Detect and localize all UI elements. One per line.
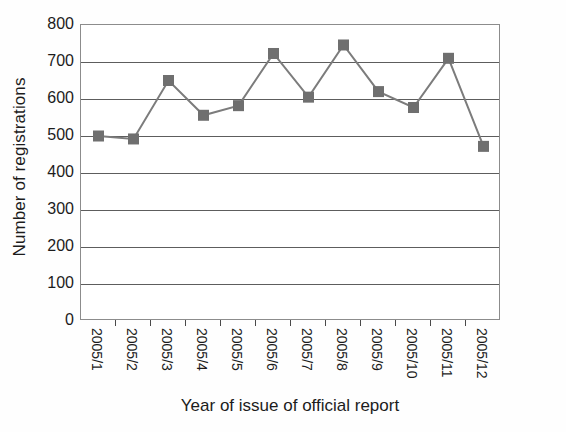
data-point-marker (128, 133, 139, 144)
y-tick-label: 200 (28, 236, 74, 255)
data-point-marker (93, 131, 104, 142)
data-point-marker (408, 102, 419, 113)
y-tick-label: 0 (28, 310, 74, 329)
x-tick-label: 2005/6 (265, 328, 279, 371)
x-tick (255, 320, 256, 326)
x-tick (115, 320, 116, 326)
y-tick-label: 800 (28, 14, 74, 33)
x-tick (395, 320, 396, 326)
data-point-marker (198, 110, 209, 121)
x-tick (465, 320, 466, 326)
data-point-marker (443, 53, 454, 64)
x-tick (185, 320, 186, 326)
x-tick-label: 2005/2 (125, 328, 139, 371)
data-point-marker (303, 92, 314, 103)
data-point-marker (233, 100, 244, 111)
x-tick-label: 2005/1 (90, 328, 104, 371)
x-tick (325, 320, 326, 326)
x-tick-label: 2005/9 (370, 328, 384, 371)
data-point-marker (338, 39, 349, 50)
y-tick-label: 300 (28, 199, 74, 218)
series-line-registrations (81, 25, 501, 321)
x-tick-label: 2005/4 (195, 328, 209, 371)
x-tick-label: 2005/5 (230, 328, 244, 371)
x-tick-label: 2005/12 (475, 328, 489, 379)
x-tick (150, 320, 151, 326)
x-tick-label: 2005/11 (440, 328, 454, 378)
x-tick-label: 2005/3 (160, 328, 174, 371)
y-tick-label: 700 (28, 51, 74, 70)
x-axis-title: Year of issue of official report (80, 396, 500, 416)
x-tick-label: 2005/7 (300, 328, 314, 371)
data-point-marker (268, 48, 279, 59)
y-tick-label: 100 (28, 273, 74, 292)
data-point-marker (373, 86, 384, 97)
y-tick-label: 500 (28, 125, 74, 144)
y-axis-tick-labels: 8007006005004003002001000 (28, 14, 74, 334)
x-tick-label: 2005/8 (335, 328, 349, 371)
plot-area (80, 24, 500, 320)
y-tick-label: 600 (28, 88, 74, 107)
x-tick (360, 320, 361, 326)
line-chart: Number of registrations 8007006005004003… (0, 0, 566, 432)
x-axis-tick-labels: 2005/12005/22005/32005/42005/52005/62005… (80, 328, 500, 390)
x-tick-label: 2005/10 (405, 328, 419, 379)
data-point-marker (163, 75, 174, 86)
data-point-marker (478, 141, 489, 152)
x-axis-ticks (80, 320, 500, 327)
series-polyline (99, 45, 484, 146)
x-tick (290, 320, 291, 326)
y-tick-label: 400 (28, 162, 74, 181)
x-tick (220, 320, 221, 326)
x-tick (430, 320, 431, 326)
